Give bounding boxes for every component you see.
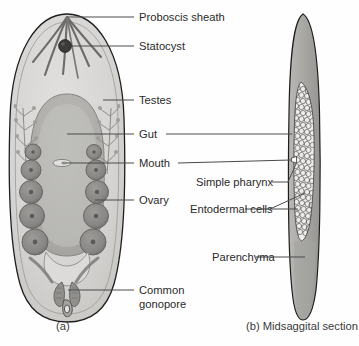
mouth-lumen (61, 162, 66, 165)
label-mouth: Mouth (139, 157, 170, 169)
caption-a: (a) (56, 320, 70, 332)
statocyst-highlight (61, 42, 65, 46)
label-testes: Testes (139, 94, 172, 106)
captions: (a) (b) Midsaggital section (56, 320, 358, 332)
label-common-gonopore-line1: Common (139, 284, 184, 296)
label-simple-pharynx: Simple pharynx (196, 176, 274, 188)
figure-canvas: Proboscis sheath Statocyst Testes Gut Mo… (0, 0, 359, 346)
caption-b: (b) Midsaggital section (246, 320, 358, 332)
anatomy-figure: Proboscis sheath Statocyst Testes Gut Mo… (0, 0, 359, 346)
label-entodermal-cells: Entodermal cells (190, 203, 273, 215)
statocyst (59, 40, 72, 53)
leader-mouth-right (178, 160, 291, 163)
common-gonopore (63, 300, 73, 317)
label-common-gonopore-line2: gonopore (139, 298, 186, 310)
label-gut: Gut (139, 128, 158, 140)
diagram-b-midsaggital (288, 14, 320, 320)
diagram-a-whole-mount (9, 14, 124, 322)
simple-pharynx (292, 157, 297, 164)
label-proboscis-sheath: Proboscis sheath (139, 11, 225, 23)
label-ovary: Ovary (139, 194, 169, 206)
label-parenchyma: Parenchyma (212, 251, 276, 263)
label-statocyst: Statocyst (139, 40, 186, 52)
